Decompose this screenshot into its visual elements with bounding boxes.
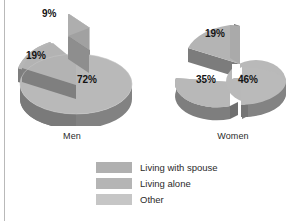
slice-label-men-spouse: 72% <box>77 74 97 85</box>
slice-label-women-alone: 35% <box>196 74 216 85</box>
slice-label-men-other: 9% <box>42 8 56 19</box>
legend-item-living-alone: Living alone <box>96 176 218 191</box>
pie-chart-women: 19% 35% 46% <box>168 20 296 128</box>
legend-item-other: Other <box>96 192 218 207</box>
legend-swatch-other <box>96 194 132 205</box>
slice-label-women-other: 19% <box>205 28 225 39</box>
slice-label-men-alone: 19% <box>26 50 46 61</box>
pie-chart-men: 9% 19% 72% <box>6 6 146 126</box>
legend-label-other: Other <box>140 194 164 205</box>
frame-border-left <box>4 0 5 221</box>
pie-chart-figure: 9% 19% 72% Men <box>0 0 298 221</box>
pie-caption-men: Men <box>44 131 100 141</box>
slice-label-women-spouse: 46% <box>238 74 258 85</box>
pie-men-svg <box>6 6 146 126</box>
legend-swatch-living-with-spouse <box>96 162 132 173</box>
legend-label-living-alone: Living alone <box>140 178 191 189</box>
legend-label-living-with-spouse: Living with spouse <box>140 162 218 173</box>
pie-women-svg <box>168 20 296 128</box>
legend: Living with spouse Living alone Other <box>96 160 218 208</box>
legend-item-living-with-spouse: Living with spouse <box>96 160 218 175</box>
pie-caption-women: Women <box>203 131 263 141</box>
legend-swatch-living-alone <box>96 178 132 189</box>
